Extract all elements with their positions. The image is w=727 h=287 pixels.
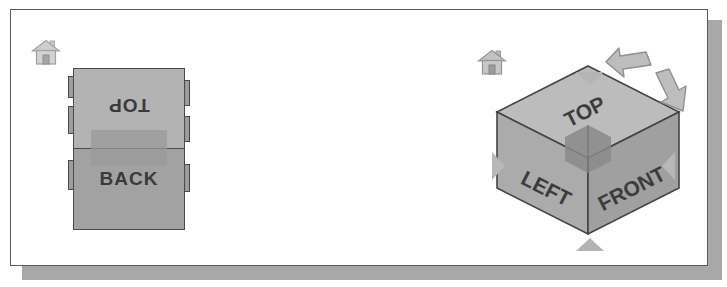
roll-arrows-group: [599, 38, 691, 130]
figure-canvas: TOP BACK: [11, 10, 707, 265]
arrow-left-icon[interactable]: [492, 152, 505, 180]
viewcube-corner-orientation: TOP LEFT FRONT: [241, 10, 471, 265]
home-icon[interactable]: [31, 38, 61, 66]
viewcube-label-back: BACK: [73, 168, 185, 190]
roll-ccw-arrow-icon[interactable]: [606, 48, 651, 77]
viewcube-edge-orientation: TOP BACK: [11, 10, 241, 265]
viewcube-edge[interactable]: TOP BACK: [73, 68, 185, 230]
figure-root: TOP BACK: [0, 0, 727, 287]
arrow-right-icon[interactable]: [662, 152, 675, 180]
edge-highlight-band: [91, 130, 167, 166]
roll-cw-arrow-icon[interactable]: [656, 69, 686, 111]
arrow-down-icon[interactable]: [576, 238, 604, 251]
figure-frame: TOP BACK: [10, 9, 708, 266]
viewcube-label-top: TOP: [73, 94, 185, 116]
